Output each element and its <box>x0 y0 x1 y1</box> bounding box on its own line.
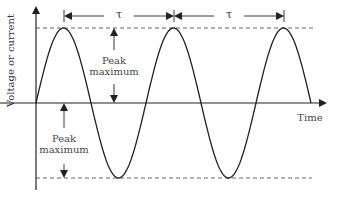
lower-peak-maximum-label: Peak maximum <box>34 133 94 155</box>
period-label-2: τ <box>226 8 232 21</box>
upper-peak-label-line1: Peak <box>84 55 144 66</box>
sine-wave-diagram: Voltage or current τ τ Peak maximum Peak… <box>0 0 347 201</box>
upper-peak-maximum-label: Peak maximum <box>84 55 144 77</box>
upper-peak-label-line2: maximum <box>84 66 144 77</box>
x-axis-label: Time <box>290 112 330 123</box>
period-label-1: τ <box>116 8 122 21</box>
lower-peak-label-line2: maximum <box>34 144 94 155</box>
y-axis-label: Voltage or current <box>5 6 16 116</box>
lower-peak-label-line1: Peak <box>34 133 94 144</box>
waveform-canvas <box>0 0 347 201</box>
